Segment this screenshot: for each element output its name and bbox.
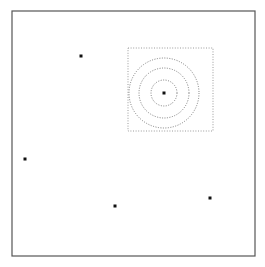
plot-svg: [0, 0, 265, 267]
data-point-marker: [114, 205, 117, 208]
figure-canvas: [0, 0, 265, 267]
data-point-marker: [209, 197, 212, 200]
figure-background: [0, 0, 265, 267]
data-point-marker: [80, 55, 83, 58]
data-point-marker: [24, 158, 27, 161]
data-point-marker: [163, 92, 166, 95]
